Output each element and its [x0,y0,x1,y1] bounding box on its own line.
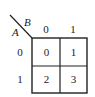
row-header-1: 1 [10,74,30,85]
row-variable-label: A [12,27,19,38]
column-header-1: 1 [63,24,83,35]
cell-a0-b1: 1 [60,47,87,58]
cell-a1-b1: 3 [60,74,87,85]
cell-a0-b0: 0 [33,47,60,58]
column-variable-label: B [24,17,31,28]
row-header-0: 0 [10,47,30,58]
column-header-0: 0 [36,24,56,35]
cell-a1-b0: 2 [33,74,60,85]
